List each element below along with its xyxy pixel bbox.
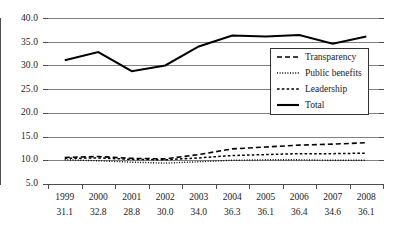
x-axis-tick <box>216 184 217 189</box>
legend-label: Total <box>300 100 324 110</box>
legend-swatch-solid-icon <box>276 100 300 110</box>
y-axis-tick <box>43 18 48 19</box>
x-axis-tick <box>249 184 250 189</box>
y-axis-tick-label: 40.0 <box>4 14 38 24</box>
y-axis-tick-label: 25.0 <box>4 85 38 95</box>
x-axis-value: 36.4 <box>283 207 317 218</box>
x-axis-label: 2004 <box>216 192 250 203</box>
y-axis-tick <box>379 160 384 161</box>
x-axis-label: 2001 <box>115 192 149 203</box>
y-axis-tick <box>43 89 48 90</box>
y-axis-labels: 40.0 35.0 30.0 25.0 20.0 15.0 10.0 5.0 <box>4 0 38 234</box>
legend-label: Transparency <box>300 52 356 62</box>
x-axis-labels: 1999200020012002200320042005200620072008 <box>48 192 383 203</box>
y-axis-tick <box>379 113 384 114</box>
y-axis-tick <box>43 137 48 138</box>
y-axis-tick-label: 30.0 <box>4 61 38 71</box>
x-axis-tick <box>383 184 384 189</box>
y-axis-tick <box>379 65 384 66</box>
x-axis-label: 2008 <box>350 192 384 203</box>
y-axis-line <box>0 18 1 185</box>
legend-item-transparency: Transparency <box>271 49 368 65</box>
x-axis-value: 31.1 <box>48 207 82 218</box>
x-axis-label: 2005 <box>249 192 283 203</box>
y-axis-tick-label: 10.0 <box>4 155 38 165</box>
x-axis-label: 2007 <box>316 192 350 203</box>
x-axis-value: 28.8 <box>115 207 149 218</box>
x-axis-tick <box>182 184 183 189</box>
x-axis-tick <box>82 184 83 189</box>
series-line-leadership <box>65 153 367 160</box>
legend-item-total: Total <box>271 97 368 113</box>
y-axis-tick-label: 35.0 <box>4 38 38 48</box>
y-axis-tick <box>43 113 48 114</box>
legend-item-public-benefits: Public benefits <box>271 65 368 81</box>
y-axis-tick-label: 20.0 <box>4 108 38 118</box>
legend-swatch-dotted-icon <box>276 68 300 78</box>
legend-swatch-short-dashed-icon <box>276 84 300 94</box>
x-axis-label: 2000 <box>82 192 116 203</box>
x-axis-label: 1999 <box>48 192 82 203</box>
y-axis-tick <box>379 89 384 90</box>
y-axis-tick-label: 5.0 <box>4 179 38 189</box>
x-axis-value: 30.0 <box>149 207 183 218</box>
x-axis-label: 2002 <box>149 192 183 203</box>
y-axis-tick <box>379 42 384 43</box>
x-axis-tick <box>115 184 116 189</box>
y-axis-tick <box>379 137 384 138</box>
x-axis-tick <box>283 184 284 189</box>
legend: Transparency Public benefits Leadership … <box>270 48 369 115</box>
x-axis-tick <box>316 184 317 189</box>
legend-label: Public benefits <box>300 68 362 78</box>
x-axis-value: 36.1 <box>249 207 283 218</box>
y-axis-tick <box>43 65 48 66</box>
legend-item-leadership: Leadership <box>271 81 368 97</box>
y-axis-tick <box>379 18 384 19</box>
series-line-public-benefits <box>65 160 367 163</box>
x-axis-value: 36.3 <box>216 207 250 218</box>
x-axis-tick <box>48 184 49 189</box>
x-axis-label: 2006 <box>283 192 317 203</box>
x-axis-value: 34.6 <box>316 207 350 218</box>
y-axis-tick <box>43 42 48 43</box>
legend-swatch-long-dashed-icon <box>276 52 300 62</box>
x-axis-label: 2003 <box>182 192 216 203</box>
x-axis-value: 34.0 <box>182 207 216 218</box>
legend-label: Leadership <box>300 84 347 94</box>
x-axis-tick <box>149 184 150 189</box>
line-chart: 40.0 35.0 30.0 25.0 20.0 15.0 10.0 5.0 T… <box>0 0 396 234</box>
y-axis-tick-label: 15.0 <box>4 132 38 142</box>
x-axis-value-row: 31.132.828.830.034.036.336.136.434.636.1 <box>48 207 383 218</box>
y-axis-tick <box>43 160 48 161</box>
x-axis-value: 32.8 <box>82 207 116 218</box>
x-axis-tick <box>350 184 351 189</box>
x-axis-value: 36.1 <box>350 207 384 218</box>
